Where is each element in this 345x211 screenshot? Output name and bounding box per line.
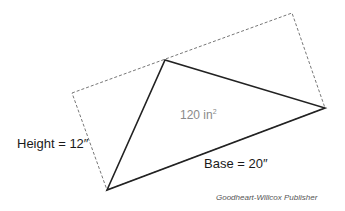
diagram-graphic	[0, 0, 345, 211]
base-label: Base = 20″	[204, 156, 268, 171]
area-exponent: 2	[213, 108, 217, 115]
publisher-credit: Goodheart-Willcox Publisher	[216, 193, 317, 202]
area-label: 120 in2	[180, 108, 217, 122]
bounding-rectangle	[72, 13, 325, 190]
area-value: 120 in	[180, 108, 213, 122]
triangle-area-diagram: Height = 12″ Base = 20″ 120 in2 Goodhear…	[0, 0, 345, 211]
height-label: Height = 12″	[17, 136, 88, 151]
